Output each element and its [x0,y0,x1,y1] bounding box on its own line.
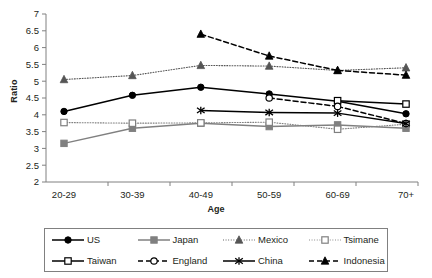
legend-label: Tsimane [342,234,379,245]
x-tick-label: 50-59 [257,189,281,200]
chart-legend: USJapanMexicoTsimaneTaiwanEnglandChinaIn… [44,228,388,272]
legend-item-mexico[interactable]: Mexico [216,229,302,250]
legend-symbol-filled-triangle-icon [222,234,256,246]
data-point-open-square [266,119,272,125]
data-point-filled-triangle [197,30,205,37]
legend-label: Japan [171,234,199,245]
y-axis-label: Ratio [9,61,19,121]
y-tick-label: 4.5 [26,92,39,103]
data-point-open-square [61,119,67,125]
y-tick-label: 5.5 [26,59,39,70]
x-axis-label: Age [0,204,432,214]
y-tick-label: 7 [34,8,39,19]
data-point-open-circle [266,95,272,101]
legend-item-japan[interactable]: Japan [131,229,217,250]
y-tick-label: 5 [34,76,39,87]
x-tick-label: 20-29 [52,189,76,200]
legend-label: US [85,234,100,245]
data-point-open-circle [334,103,340,109]
line-chart: 22.533.544.555.566.57 20-2930-3940-4950-… [0,0,432,222]
data-point-filled-circle [129,92,135,98]
legend-item-china[interactable]: China [216,250,302,271]
legend-label: England [171,255,208,266]
series-japan [61,120,409,147]
x-tick-label: 30-39 [120,189,144,200]
data-point-filled-square [150,236,156,242]
data-point-filled-triangle [402,64,410,71]
chart-root: Ratio 22.533.544.555.566.57 20-2930-3940… [0,0,432,278]
x-axis: 20-2930-3940-4950-5960-6970+ [46,182,418,200]
y-tick-label: 6 [34,42,39,53]
data-point-open-square [198,120,204,126]
y-tick-label: 3 [34,143,39,154]
series-indonesia [197,30,410,78]
y-axis: 22.533.544.555.566.57 [26,8,46,187]
y-tick-label: 2.5 [26,160,39,171]
data-point-filled-circle [403,111,409,117]
data-point-open-square [65,257,71,263]
legend-symbol-open-circle-icon [137,255,171,267]
legend-item-tsimane[interactable]: Tsimane [302,229,388,250]
data-point-filled-circle [61,108,67,114]
data-point-filled-square [61,140,67,146]
legend-item-england[interactable]: England [131,250,217,271]
legend-label: Indonesia [342,255,385,266]
plot-area: Ratio 22.533.544.555.566.57 20-2930-3940… [0,0,432,222]
legend-symbol-open-square-icon [308,234,342,246]
data-point-filled-circle [198,84,204,90]
y-tick-label: 2 [34,176,39,187]
legend-item-taiwan[interactable]: Taiwan [45,250,131,271]
legend-symbol-asterisk-icon [222,255,256,267]
data-point-open-circle [150,257,156,263]
data-point-filled-circle [65,236,71,242]
data-point-open-square [334,126,340,132]
legend-symbol-open-square-icon [51,255,85,267]
legend-symbol-filled-circle-icon [51,234,85,246]
data-point-open-square [129,120,135,126]
x-tick-label: 70+ [398,189,415,200]
legend-symbol-filled-triangle-icon [308,255,342,267]
y-tick-label: 6.5 [26,25,39,36]
x-tick-label: 60-69 [325,189,349,200]
x-tick-label: 40-49 [189,189,213,200]
legend-label: Mexico [256,234,288,245]
y-tick-label: 4 [34,109,39,120]
legend-label: China [256,255,283,266]
series-layer [60,30,410,147]
y-tick-label: 3.5 [26,126,39,137]
data-point-open-square [321,236,327,242]
legend-item-us[interactable]: US [45,229,131,250]
legend-label: Taiwan [85,255,117,266]
data-point-open-square [403,101,409,107]
legend-symbol-filled-square-icon [137,234,171,246]
legend-item-indonesia[interactable]: Indonesia [302,250,388,271]
